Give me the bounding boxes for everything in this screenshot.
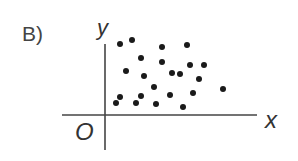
data-points [113, 37, 226, 110]
data-point [159, 59, 165, 65]
data-point [117, 94, 123, 100]
data-point [187, 62, 193, 68]
data-point [151, 84, 157, 90]
data-point [167, 92, 173, 98]
data-point [153, 101, 159, 107]
data-point [113, 100, 119, 106]
data-point [133, 100, 139, 106]
data-point [169, 70, 175, 76]
data-point [159, 44, 165, 50]
data-point [220, 86, 226, 92]
data-point [180, 104, 186, 110]
data-point [184, 42, 190, 48]
data-point [177, 71, 183, 77]
data-point [117, 41, 123, 47]
data-point [138, 55, 144, 61]
data-point [129, 37, 135, 43]
data-point [138, 93, 144, 99]
scatter-plot [0, 0, 298, 161]
data-point [201, 62, 207, 68]
data-point [141, 73, 147, 79]
data-point [196, 76, 202, 82]
data-point [190, 90, 196, 96]
data-point [123, 68, 129, 74]
